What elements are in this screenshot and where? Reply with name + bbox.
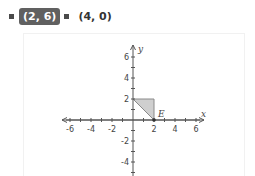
x-axis-label: x <box>201 109 206 119</box>
x-tick-label: -4 <box>87 125 95 134</box>
coordinate-plane: -6 -4 -2 2 4 6 6 4 2 -2 -4 y x E <box>0 0 255 176</box>
y-tick-label: -2 <box>121 137 129 146</box>
y-tick-label: 4 <box>124 74 129 83</box>
x-tick-label: 2 <box>151 125 156 134</box>
y-axis-label: y <box>137 44 144 54</box>
y-tick-label: 2 <box>124 95 129 104</box>
y-tick-label: 6 <box>124 53 129 62</box>
point-e-marker <box>152 118 156 122</box>
x-tick-label: 6 <box>193 125 198 134</box>
y-tick-label: -4 <box>121 158 129 167</box>
x-tick-label: -6 <box>66 125 74 134</box>
x-tick-label: -2 <box>108 125 116 134</box>
shaded-triangle <box>133 99 154 120</box>
point-e-label: E <box>157 109 165 119</box>
x-tick-label: 4 <box>172 125 177 134</box>
